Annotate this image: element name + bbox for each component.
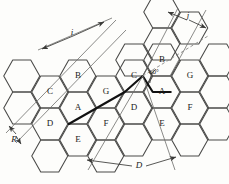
- cell-reuse-diagram: B C G D A F E B C G A D F E i j R D 60°: [0, 0, 229, 184]
- hexagon-lattice: [4, 0, 229, 172]
- cell-label-right-E: E: [159, 118, 165, 128]
- bold-segment-right: [143, 76, 171, 92]
- cell-label-left-B: B: [75, 70, 81, 80]
- cell-label-right-C: C: [131, 70, 137, 80]
- cell-label-left-A: A: [75, 102, 82, 112]
- hex-cell-partial: [200, 108, 229, 140]
- cell-label-left-G: G: [103, 86, 110, 96]
- hex-cell-partial: [200, 76, 229, 108]
- dim-arrow-D-b: [146, 157, 176, 166]
- cell-label-right-F: F: [187, 102, 192, 112]
- angle-label-60: 60°: [149, 68, 159, 76]
- cell-label-right-D: D: [131, 102, 138, 112]
- cell-label-right-A: A: [159, 86, 166, 96]
- dim-arrow-D-a: [87, 160, 132, 166]
- dimension-label-j: j: [186, 10, 190, 20]
- cell-label-left-E: E: [75, 134, 81, 144]
- dimension-label-R: R: [10, 134, 17, 144]
- cell-label-left-D: D: [47, 118, 54, 128]
- hex-cell-partial: [200, 44, 229, 76]
- dimension-label-D: D: [135, 160, 143, 170]
- dim-arrow-i-b: [73, 22, 104, 36]
- figure-canvas: B C G D A F E B C G A D F E i j R D 60°: [0, 0, 229, 184]
- guide-line-i-outer: [38, 18, 112, 50]
- cell-label-right-G: G: [187, 70, 194, 80]
- cell-label-left-F: F: [103, 118, 108, 128]
- cell-label-left-C: C: [47, 86, 53, 96]
- cell-label-right-B: B: [159, 54, 165, 64]
- dim-arrow-R-a: [9, 126, 16, 134]
- guide-line-left-b: [16, 30, 126, 143]
- dim-arrow-i-a: [42, 36, 73, 49]
- guide-line-right-a: [143, 8, 178, 76]
- bold-segment-left: [69, 76, 143, 124]
